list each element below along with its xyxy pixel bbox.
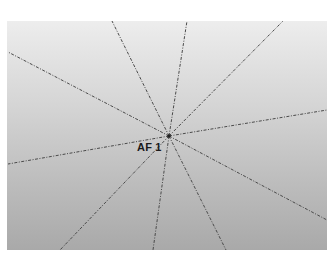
af-point-label: AF 1 bbox=[137, 141, 162, 153]
radial-line-8 bbox=[153, 136, 169, 250]
radial-line-5 bbox=[169, 110, 327, 136]
radial-line-4 bbox=[169, 21, 283, 136]
radial-line-3 bbox=[169, 21, 187, 136]
radial-line-2 bbox=[112, 21, 169, 136]
radial-line-1 bbox=[8, 52, 169, 136]
radial-line-9 bbox=[60, 136, 169, 250]
af-point-marker bbox=[167, 134, 171, 138]
radial-lines bbox=[0, 0, 332, 257]
radial-line-7 bbox=[169, 136, 226, 250]
radial-line-6 bbox=[169, 136, 327, 220]
diagram-stage: AF 1 bbox=[0, 0, 332, 257]
